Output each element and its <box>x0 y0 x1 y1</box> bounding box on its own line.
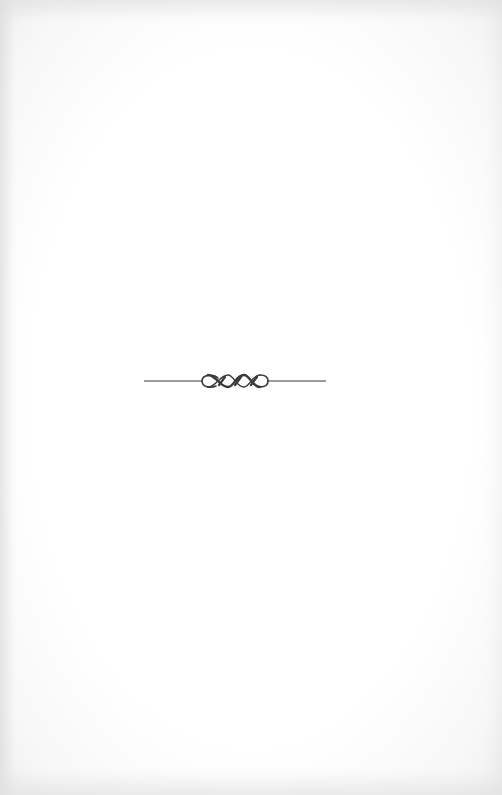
page-gutter-shadow <box>0 0 14 795</box>
rope-knot-icon <box>202 375 268 387</box>
rope-knot-divider-icon <box>142 370 330 392</box>
book-page <box>0 0 502 795</box>
ornamental-divider <box>142 370 330 392</box>
